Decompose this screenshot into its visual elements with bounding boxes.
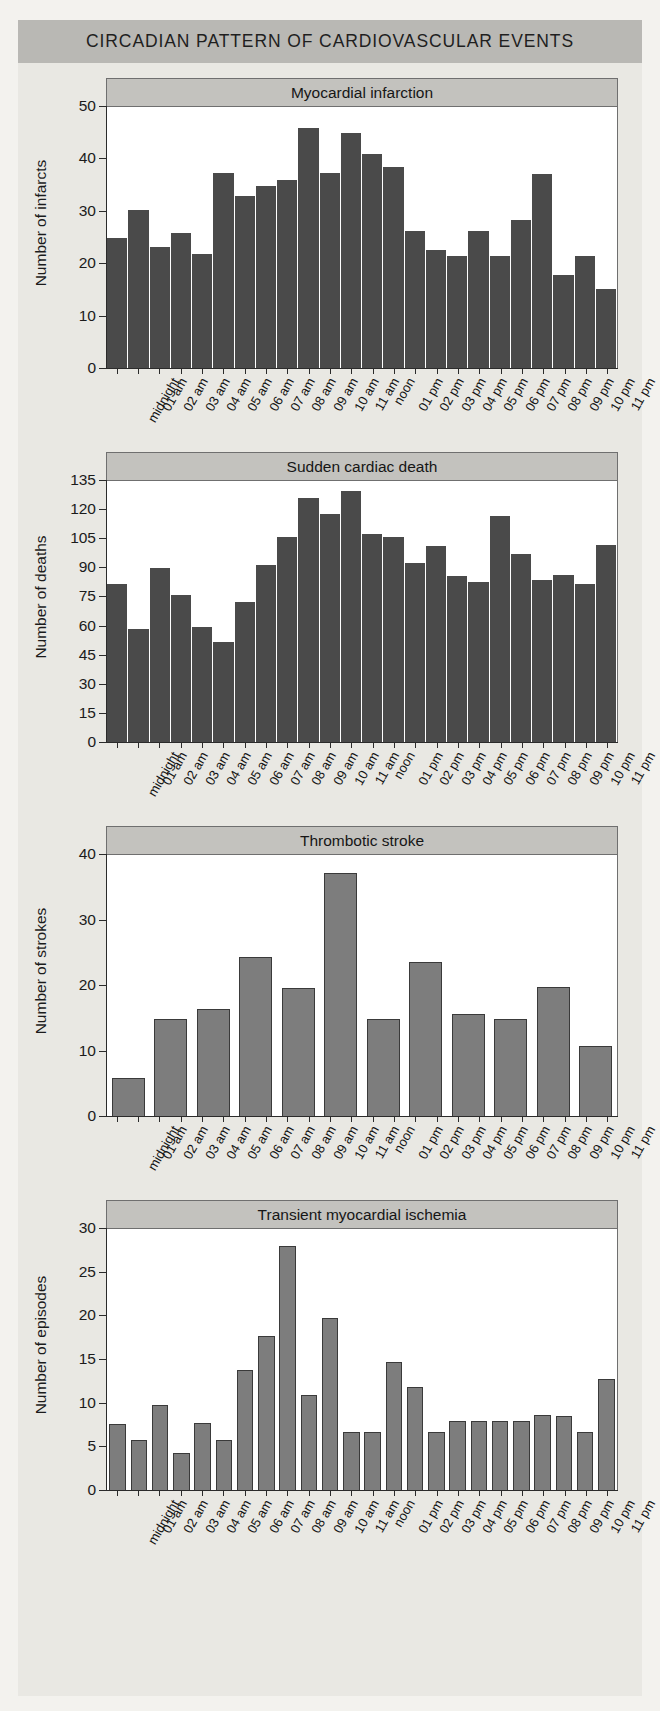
- x-axis-tick: [479, 1116, 480, 1122]
- bar: [407, 1387, 424, 1491]
- chart-sudden-cardiac-death: Number of deathsSudden cardiac death0153…: [18, 452, 642, 806]
- chart-transient-myocardial-ischemia: Number of episodesTransient myocardial i…: [18, 1200, 642, 1554]
- x-axis-tick: [117, 1116, 118, 1122]
- figure-panel: CIRCADIAN PATTERN OF CARDIOVASCULAR EVEN…: [18, 20, 642, 1696]
- bar: [492, 1421, 509, 1491]
- y-axis-tick: [99, 742, 106, 743]
- x-axis-tick: [351, 1116, 352, 1122]
- bar: [513, 1421, 530, 1491]
- x-axis-tick: [181, 1490, 182, 1496]
- x-axis-tick: [117, 742, 118, 748]
- x-axis: [106, 1490, 618, 1491]
- bar: [256, 186, 277, 369]
- y-axis-tick-label: 10: [79, 307, 96, 325]
- x-axis-tick: [138, 742, 139, 748]
- x-axis-tick: [479, 368, 480, 374]
- x-axis-tick: [607, 368, 608, 374]
- y-axis-tick-label: 30: [79, 675, 96, 693]
- x-axis-tick: [202, 742, 203, 748]
- y-axis-tick: [99, 1228, 106, 1229]
- x-axis-tick: [223, 1490, 224, 1496]
- y-axis-tick: [99, 1272, 106, 1273]
- x-axis-tick: [266, 368, 267, 374]
- x-axis-tick: [245, 742, 246, 748]
- bar: [468, 582, 489, 743]
- x-axis-tick: [266, 1490, 267, 1496]
- y-axis-tick: [99, 713, 106, 714]
- bar: [575, 256, 596, 369]
- plot-frame: Transient myocardial ischemia: [106, 1200, 618, 1490]
- x-axis-tick: [330, 1490, 331, 1496]
- bar-series: [107, 1229, 617, 1491]
- bar: [152, 1405, 169, 1491]
- y-axis-tick-label: 40: [79, 845, 96, 863]
- bar: [367, 1019, 400, 1117]
- y-axis-tick-label: 135: [70, 471, 96, 489]
- x-axis-tick: [437, 742, 438, 748]
- bar: [575, 584, 596, 743]
- y-axis-tick-label: 15: [79, 1350, 96, 1368]
- y-axis-tick: [99, 655, 106, 656]
- bar: [150, 568, 171, 743]
- x-axis-tick: [586, 1116, 587, 1122]
- bar: [362, 154, 383, 369]
- x-axis-tick: [202, 1116, 203, 1122]
- x-axis-tick: [351, 1490, 352, 1496]
- x-axis-tick: [565, 1490, 566, 1496]
- x-axis-tick: [309, 1116, 310, 1122]
- x-axis-tick: [138, 1490, 139, 1496]
- y-axis-tick: [99, 1315, 106, 1316]
- y-axis-tick-label: 75: [79, 587, 96, 605]
- bar: [324, 873, 357, 1117]
- y-axis-title: Number of episodes: [32, 1200, 50, 1490]
- x-axis-tick: [501, 742, 502, 748]
- bar: [447, 256, 468, 369]
- bar: [197, 1009, 230, 1117]
- x-axis-tick: [181, 1116, 182, 1122]
- chart-caption: Myocardial infarction: [107, 79, 617, 107]
- x-axis-tick: [245, 1116, 246, 1122]
- bar: [171, 595, 192, 743]
- x-axis-tick: [245, 1490, 246, 1496]
- y-axis-tick-label: 10: [79, 1394, 96, 1412]
- figure-title: CIRCADIAN PATTERN OF CARDIOVASCULAR EVEN…: [18, 20, 642, 63]
- x-axis-tick: [138, 1116, 139, 1122]
- y-axis-tick: [99, 509, 106, 510]
- bar: [579, 1046, 612, 1117]
- bar-series: [107, 855, 617, 1117]
- bar: [107, 584, 128, 743]
- bar: [534, 1415, 551, 1491]
- bar: [213, 642, 234, 743]
- y-axis-tick-label: 90: [79, 558, 96, 576]
- x-axis-tick: [458, 368, 459, 374]
- bar: [532, 580, 553, 743]
- bar: [490, 256, 511, 369]
- bar: [490, 516, 511, 743]
- x-axis-tick: [394, 1116, 395, 1122]
- y-axis-title: Number of strokes: [32, 826, 50, 1116]
- bar: [235, 196, 256, 369]
- x-axis-tick: [607, 1490, 608, 1496]
- chart-caption: Thrombotic stroke: [107, 827, 617, 855]
- x-axis-tick: [373, 1490, 374, 1496]
- x-axis-tick: [543, 742, 544, 748]
- plot-area: [107, 855, 617, 1117]
- x-axis-tick: [586, 742, 587, 748]
- bar: [213, 173, 234, 370]
- bar: [468, 231, 489, 369]
- x-axis-tick: [437, 1116, 438, 1122]
- bar: [596, 545, 617, 743]
- y-axis-tick: [99, 1116, 106, 1117]
- x-axis-tick: [138, 368, 139, 374]
- y-axis-tick: [99, 1446, 106, 1447]
- chart-myocardial-infarction: Number of infarctsMyocardial infarction0…: [18, 78, 642, 432]
- y-axis-tick: [99, 920, 106, 921]
- bar: [277, 180, 298, 369]
- bar: [471, 1421, 488, 1491]
- x-axis-tick: [202, 1490, 203, 1496]
- x-axis-tick: [223, 1116, 224, 1122]
- chart-caption: Transient myocardial ischemia: [107, 1201, 617, 1229]
- y-axis-tick: [99, 211, 106, 212]
- bar: [237, 1370, 254, 1491]
- y-axis-tick: [99, 480, 106, 481]
